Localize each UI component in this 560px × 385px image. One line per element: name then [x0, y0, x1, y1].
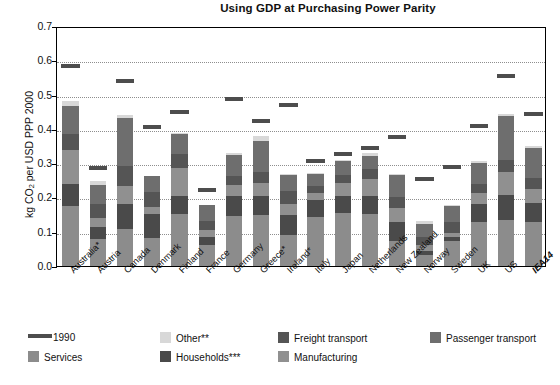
bar-column[interactable]: [193, 28, 220, 266]
bar-segment[interactable]: [362, 169, 378, 179]
bar-segment[interactable]: [280, 175, 296, 191]
bar-column[interactable]: [139, 28, 166, 266]
legend-item-households[interactable]: Households***: [160, 351, 241, 363]
bar-column[interactable]: [84, 28, 111, 266]
stacked-bar[interactable]: [389, 28, 405, 266]
stacked-bar[interactable]: [171, 28, 187, 266]
bar-segment[interactable]: [62, 206, 78, 266]
bar-segment[interactable]: [253, 196, 269, 215]
bar-segment[interactable]: [471, 204, 487, 222]
bar-column[interactable]: [438, 28, 465, 266]
bar-segment[interactable]: [90, 204, 106, 217]
bar-segment[interactable]: [280, 204, 296, 215]
bar-segment[interactable]: [498, 195, 514, 220]
bar-segment[interactable]: [362, 179, 378, 196]
stacked-bar[interactable]: [226, 28, 242, 266]
bar-segment[interactable]: [362, 153, 378, 156]
legend-item-other[interactable]: Other**: [160, 332, 209, 344]
bar-segment[interactable]: [471, 161, 487, 163]
stacked-bar[interactable]: [280, 28, 296, 266]
bar-segment[interactable]: [171, 168, 187, 196]
stacked-bar[interactable]: [307, 28, 323, 266]
stacked-bar[interactable]: [199, 28, 215, 266]
bar-segment[interactable]: [171, 154, 187, 168]
bar-column[interactable]: [220, 28, 247, 266]
bar-segment[interactable]: [471, 163, 487, 184]
bar-segment[interactable]: [199, 230, 215, 237]
bar-column[interactable]: [493, 28, 520, 266]
bar-segment[interactable]: [90, 227, 106, 239]
bar-segment[interactable]: [335, 175, 351, 183]
bar-segment[interactable]: [171, 134, 187, 154]
bar-segment[interactable]: [307, 200, 323, 218]
bar-segment[interactable]: [525, 146, 541, 148]
bar-column[interactable]: [166, 28, 193, 266]
bar-segment[interactable]: [144, 207, 160, 215]
bar-segment[interactable]: [62, 134, 78, 150]
bar-segment[interactable]: [525, 148, 541, 178]
bar-segment[interactable]: [144, 176, 160, 192]
stacked-bar[interactable]: [444, 28, 460, 266]
bar-segment[interactable]: [307, 186, 323, 193]
bar-segment[interactable]: [117, 115, 133, 118]
bar-segment[interactable]: [62, 184, 78, 206]
bar-segment[interactable]: [199, 237, 215, 245]
stacked-bar[interactable]: [117, 28, 133, 266]
bar-segment[interactable]: [253, 136, 269, 141]
legend-item-freight[interactable]: Freight transport: [278, 332, 367, 344]
bar-segment[interactable]: [90, 181, 106, 185]
stacked-bar[interactable]: [471, 28, 487, 266]
bar-segment[interactable]: [199, 221, 215, 231]
legend-item-services[interactable]: Services: [28, 351, 82, 363]
bar-column[interactable]: [111, 28, 138, 266]
bar-segment[interactable]: [171, 196, 187, 214]
bar-segment[interactable]: [444, 233, 460, 237]
bar-segment[interactable]: [90, 218, 106, 228]
bar-segment[interactable]: [444, 237, 460, 241]
stacked-bar[interactable]: [144, 28, 160, 266]
stacked-bar[interactable]: [525, 28, 541, 266]
bar-segment[interactable]: [62, 150, 78, 184]
stacked-bar[interactable]: [498, 28, 514, 266]
bar-segment[interactable]: [62, 106, 78, 134]
bar-segment[interactable]: [335, 160, 351, 161]
bar-segment[interactable]: [335, 161, 351, 175]
bar-segment[interactable]: [498, 172, 514, 194]
bar-segment[interactable]: [307, 193, 323, 200]
stacked-bar[interactable]: [62, 28, 78, 266]
bar-segment[interactable]: [389, 208, 405, 222]
legend-item-manufacturing[interactable]: Manufacturing: [278, 351, 357, 363]
bar-segment[interactable]: [444, 222, 460, 232]
bar-segment[interactable]: [444, 205, 460, 206]
bar-segment[interactable]: [362, 196, 378, 214]
bar-segment[interactable]: [498, 114, 514, 116]
bar-segment[interactable]: [335, 183, 351, 197]
bar-segment[interactable]: [362, 156, 378, 169]
bar-segment[interactable]: [389, 174, 405, 175]
bar-column[interactable]: [329, 28, 356, 266]
bar-segment[interactable]: [171, 133, 187, 135]
bar-segment[interactable]: [335, 196, 351, 212]
bar-segment[interactable]: [144, 214, 160, 237]
bar-segment[interactable]: [226, 155, 242, 176]
stacked-bar[interactable]: [253, 28, 269, 266]
bar-column[interactable]: [520, 28, 547, 266]
bar-segment[interactable]: [226, 196, 242, 216]
bar-segment[interactable]: [226, 185, 242, 196]
bar-segment[interactable]: [253, 141, 269, 173]
bar-segment[interactable]: [253, 172, 269, 183]
bar-segment[interactable]: [253, 183, 269, 196]
bar-segment[interactable]: [389, 175, 405, 197]
bar-segment[interactable]: [498, 116, 514, 160]
bar-segment[interactable]: [471, 193, 487, 204]
bar-segment[interactable]: [144, 192, 160, 206]
bar-segment[interactable]: [525, 189, 541, 203]
bar-segment[interactable]: [280, 191, 296, 203]
bar-segment[interactable]: [444, 205, 460, 222]
legend-item-passenger[interactable]: Passenger transport: [430, 332, 536, 344]
bar-segment[interactable]: [389, 197, 405, 208]
bar-segment[interactable]: [498, 160, 514, 172]
bar-column[interactable]: [302, 28, 329, 266]
bar-segment[interactable]: [199, 205, 215, 220]
bar-segment[interactable]: [525, 178, 541, 189]
